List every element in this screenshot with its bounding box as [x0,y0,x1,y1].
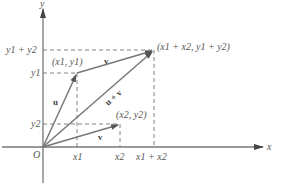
y-axis-label: y [39,0,45,9]
label-v: v [98,132,103,142]
label-u-plus-v: u + v [103,87,124,107]
y-tick-y1-plus-y2: y1 + y2 [5,44,37,55]
vector-u [43,75,76,147]
vector-addition-diagram: u v v u + v y x O x1 x2 x1 + x2 y1 + y2 … [0,0,287,186]
x-tick-x2: x2 [114,151,124,162]
point-label-sum: (x1 + x2, y1 + y2) [157,41,231,53]
label-v-translated: v [104,56,109,66]
y-tick-y2: y2 [30,118,40,129]
x-tick-x1: x1 [72,151,82,162]
vector-v [43,125,118,147]
x-tick-x1-plus-x2: x1 + x2 [135,151,167,162]
point-label-x2-y2: (x2, y2) [116,109,147,121]
origin-label: O [33,149,40,160]
x-axis-label: x [266,141,272,152]
label-u: u [53,97,58,107]
axes [2,9,263,183]
point-label-x1-y1: (x1, y1) [52,56,83,68]
y-tick-y1: y1 [30,67,40,78]
